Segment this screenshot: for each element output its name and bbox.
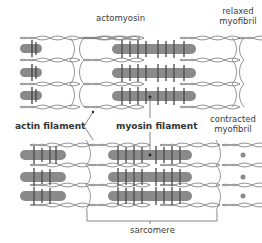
actomyosin-label: actomyosin bbox=[96, 13, 145, 23]
contracted-label-line1: contracted bbox=[208, 114, 258, 124]
myosin-filaments-relaxed-left bbox=[20, 40, 42, 104]
actin-filament-label: actin filament bbox=[15, 121, 85, 131]
myosin-filaments-relaxed-center bbox=[112, 40, 196, 105]
relaxed-myofibril-label: relaxed myofibril bbox=[218, 6, 258, 26]
myosin-filaments-contracted-left bbox=[20, 146, 66, 205]
actin-pointer-dot bbox=[92, 111, 94, 113]
sarcomere-label: sarcomere bbox=[130, 225, 175, 235]
relaxed-myofibril-panel bbox=[20, 36, 262, 109]
contracted-label-line2: myofibril bbox=[208, 124, 258, 134]
contracted-myofibril-panel bbox=[20, 140, 262, 210]
sarcomere-bracket bbox=[87, 210, 217, 224]
relaxed-label-line1: relaxed bbox=[218, 6, 258, 16]
relaxed-label-line2: myofibril bbox=[218, 16, 258, 26]
myosin-filaments-contracted-center bbox=[108, 146, 192, 205]
myosin-filament-label: myosin filament bbox=[116, 121, 197, 131]
contracted-myofibril-label: contracted myofibril bbox=[208, 114, 258, 134]
myosin-filaments-contracted-right-stubs bbox=[241, 153, 246, 199]
